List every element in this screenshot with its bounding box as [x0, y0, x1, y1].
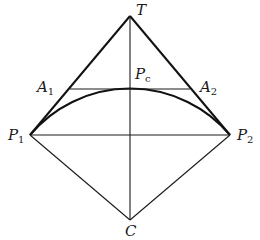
label-c: C [125, 222, 137, 240]
radius-c-p2 [130, 135, 230, 220]
label-p2: P2 [236, 126, 253, 145]
label-pc: Pc [134, 65, 151, 84]
tangent-line-t-p1 [30, 16, 130, 135]
curve-geometry-diagram: T Pc A1 A2 P1 P2 C [0, 0, 260, 240]
radius-c-p1 [30, 135, 130, 220]
label-a1: A1 [35, 78, 54, 97]
label-t: T [136, 1, 147, 19]
label-p1: P1 [7, 126, 24, 145]
label-a2: A2 [198, 78, 217, 97]
